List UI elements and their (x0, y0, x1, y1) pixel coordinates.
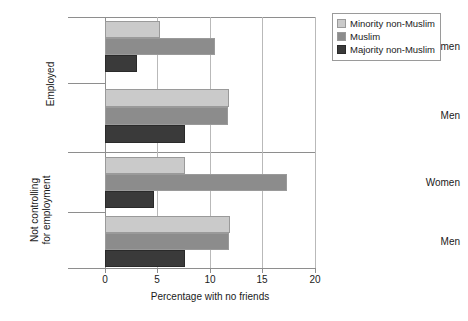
group-label-notcontrolling-line2: for employment (41, 157, 53, 263)
category-label-notcontrolling-men: Men (364, 236, 468, 248)
tick-mark-0 (105, 268, 106, 273)
legend-label-majority-non-muslim: Majority non-Muslim (350, 44, 435, 55)
legend-label-muslim: Muslim (350, 31, 380, 42)
bar-employed-women-muslim (105, 38, 215, 55)
bar-notcontrolling-women-minority-non-muslim (105, 157, 185, 174)
category-label-employed-men: Men (364, 110, 468, 122)
bar-notcontrolling-women-muslim (105, 174, 287, 191)
x-tick-label-15: 15 (256, 274, 267, 286)
legend-row-minority-non-muslim: Minority non-Muslim (337, 17, 435, 30)
x-tick-label-5: 5 (154, 274, 160, 286)
bar-notcontrolling-men-majority-non-muslim (105, 250, 185, 267)
group-label-employed: Employed (45, 41, 57, 127)
bar-notcontrolling-men-muslim (105, 233, 229, 250)
gridline-20 (315, 17, 316, 268)
legend-swatch-majority-non-muslim (337, 45, 346, 54)
category-separator-tick-notcontrolling (68, 212, 105, 213)
tick-mark-20 (315, 268, 316, 273)
tick-mark-10 (210, 268, 211, 273)
bar-notcontrolling-women-majority-non-muslim (105, 191, 154, 208)
x-tick-label-20: 20 (309, 274, 320, 286)
group-label-notcontrolling-line1: Not controlling (29, 157, 41, 263)
legend-swatch-muslim (337, 32, 346, 41)
x-tick-label-0: 0 (102, 274, 108, 286)
bar-employed-men-muslim (105, 107, 228, 125)
legend-row-majority-non-muslim: Majority non-Muslim (337, 43, 435, 56)
legend-label-minority-non-muslim: Minority non-Muslim (350, 18, 435, 29)
bar-notcontrolling-men-minority-non-muslim (105, 216, 230, 233)
bar-employed-men-minority-non-muslim (105, 89, 229, 107)
x-axis-title: Percentage with no friends (105, 291, 315, 303)
x-tick-label-10: 10 (204, 274, 215, 286)
bar-employed-women-minority-non-muslim (105, 21, 160, 38)
bar-employed-men-majority-non-muslim (105, 125, 185, 143)
bar-employed-women-majority-non-muslim (105, 55, 137, 72)
legend-swatch-minority-non-muslim (337, 19, 346, 28)
tick-mark-5 (157, 268, 158, 273)
category-label-notcontrolling-women: Women (364, 177, 468, 189)
legend-row-muslim: Muslim (337, 30, 435, 43)
tick-mark-15 (262, 268, 263, 273)
category-separator-tick-employed (68, 83, 105, 84)
bar-chart: 0 5 10 15 20 Percentage with no friends … (0, 0, 468, 321)
legend: Minority non-Muslim Muslim Majority non-… (332, 13, 441, 61)
gridline-15 (262, 17, 263, 268)
